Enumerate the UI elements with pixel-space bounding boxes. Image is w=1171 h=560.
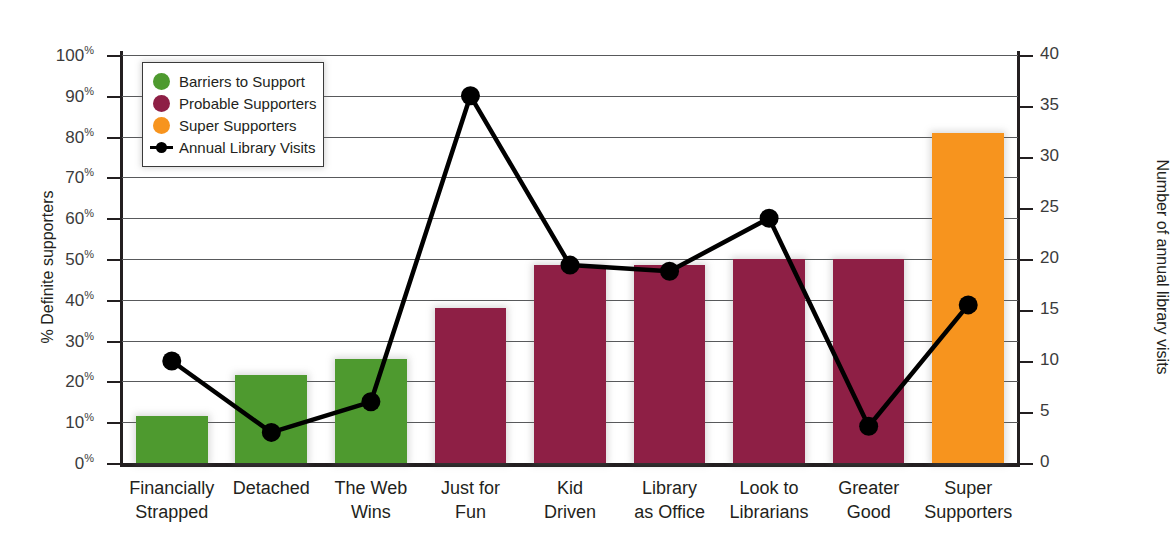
- y-axis-right-tick-label: 30: [1040, 146, 1100, 166]
- legend-dot-icon: [156, 142, 167, 153]
- x-axis-label-line: Kid: [520, 476, 620, 500]
- y-axis-left-tick-label: 60%: [24, 207, 94, 229]
- y-axis-right-tick-label: 25: [1040, 197, 1100, 217]
- line-marker-icon: [153, 139, 170, 156]
- y-axis-left-tick: [107, 177, 123, 179]
- y-axis-left-tick-label: 0%: [24, 452, 94, 474]
- legend-item[interactable]: Barriers to Support: [153, 70, 315, 92]
- y-axis-left-tick-label: 100%: [24, 44, 94, 66]
- y-axis-left-tick: [107, 96, 123, 98]
- y-axis-left-tick: [107, 463, 123, 465]
- y-axis-left-tick-label: 10%: [24, 411, 94, 433]
- y-axis-right-tick: [1017, 259, 1033, 261]
- x-axis-label-line: The Web: [321, 476, 421, 500]
- x-axis-line: [120, 463, 1020, 467]
- legend-swatch-icon: [153, 95, 170, 112]
- y-axis-right-tick: [1017, 106, 1033, 108]
- y-axis-left-tick: [107, 341, 123, 343]
- legend-swatch-icon: [153, 117, 170, 134]
- y-axis-right-tick-label: 10: [1040, 350, 1100, 370]
- x-axis-label-line: Librarians: [719, 500, 819, 524]
- x-axis-label: Look toLibrarians: [719, 476, 819, 524]
- y-axis-right-tick: [1017, 55, 1033, 57]
- legend-item[interactable]: Annual Library Visits: [153, 136, 315, 158]
- y-axis-right-tick-label: 15: [1040, 299, 1100, 319]
- x-axis-label-line: Good: [819, 500, 919, 524]
- y-axis-right-tick-label: 40: [1040, 44, 1100, 64]
- y-axis-right-title: Number of annual library visits: [1153, 117, 1171, 417]
- data-point-marker: [361, 392, 380, 411]
- y-axis-right-tick-label: 0: [1040, 452, 1100, 472]
- x-axis-label-line: Look to: [719, 476, 819, 500]
- x-axis-label-line: Wins: [321, 500, 421, 524]
- x-axis-label-line: Strapped: [122, 500, 222, 524]
- y-axis-left-tick: [107, 381, 123, 383]
- x-axis-label: The WebWins: [321, 476, 421, 524]
- x-axis-label-line: Fun: [421, 500, 521, 524]
- legend-item-label: Barriers to Support: [179, 73, 305, 90]
- data-point-marker: [461, 86, 480, 105]
- y-axis-left-tick-label: 30%: [24, 330, 94, 352]
- y-axis-left-tick-label: 90%: [24, 85, 94, 107]
- x-axis-label-line: Super: [918, 476, 1018, 500]
- y-axis-left-tick: [107, 259, 123, 261]
- y-axis-right-tick-label: 35: [1040, 95, 1100, 115]
- legend-item-label: Probable Supporters: [179, 95, 317, 112]
- y-axis-left-tick-label: 50%: [24, 248, 94, 270]
- y-axis-right-tick: [1017, 412, 1033, 414]
- x-axis-label: Libraryas Office: [620, 476, 720, 524]
- y-axis-right-tick-label: 20: [1040, 248, 1100, 268]
- y-axis-right-tick: [1017, 361, 1033, 363]
- data-point-marker: [262, 423, 281, 442]
- y-axis-left-tick: [107, 218, 123, 220]
- data-point-marker: [162, 352, 181, 371]
- x-axis-label: FinanciallyStrapped: [122, 476, 222, 524]
- x-axis-label: SuperSupporters: [918, 476, 1018, 524]
- data-point-marker: [660, 262, 679, 281]
- x-axis-label: KidDriven: [520, 476, 620, 524]
- y-axis-left-tick: [107, 300, 123, 302]
- x-axis-label-line: as Office: [620, 500, 720, 524]
- legend-item[interactable]: Super Supporters: [153, 114, 315, 136]
- y-axis-right-tick: [1017, 208, 1033, 210]
- data-point-marker: [760, 209, 779, 228]
- x-axis-label: Just forFun: [421, 476, 521, 524]
- x-axis-label-line: Driven: [520, 500, 620, 524]
- x-axis-label: GreaterGood: [819, 476, 919, 524]
- y-axis-left-tick: [107, 422, 123, 424]
- y-axis-left-tick-label: 80%: [24, 126, 94, 148]
- y-axis-left-tick-label: 20%: [24, 370, 94, 392]
- x-axis-label-line: Financially: [122, 476, 222, 500]
- x-axis-label-line: Library: [620, 476, 720, 500]
- x-axis-label: Detached: [222, 476, 322, 500]
- y-axis-left-tick-label: 70%: [24, 166, 94, 188]
- legend-item-label: Annual Library Visits: [179, 139, 315, 156]
- y-axis-right-tick: [1017, 463, 1033, 465]
- x-axis-label-line: Greater: [819, 476, 919, 500]
- data-point-marker: [959, 295, 978, 314]
- y-axis-right-tick: [1017, 310, 1033, 312]
- data-point-marker: [561, 256, 580, 275]
- y-axis-left-tick: [107, 137, 123, 139]
- x-axis-label-line: Detached: [222, 476, 322, 500]
- x-axis-label-line: Just for: [421, 476, 521, 500]
- x-axis-label-line: Supporters: [918, 500, 1018, 524]
- y-axis-right-tick-label: 5: [1040, 401, 1100, 421]
- legend-swatch-icon: [153, 73, 170, 90]
- legend: Barriers to SupportProbable SupportersSu…: [142, 62, 324, 167]
- data-point-marker: [859, 417, 878, 436]
- y-axis-left-tick-label: 40%: [24, 289, 94, 311]
- legend-item-label: Super Supporters: [179, 117, 297, 134]
- legend-item[interactable]: Probable Supporters: [153, 92, 315, 114]
- y-axis-right-tick: [1017, 157, 1033, 159]
- y-axis-left-tick: [107, 55, 123, 57]
